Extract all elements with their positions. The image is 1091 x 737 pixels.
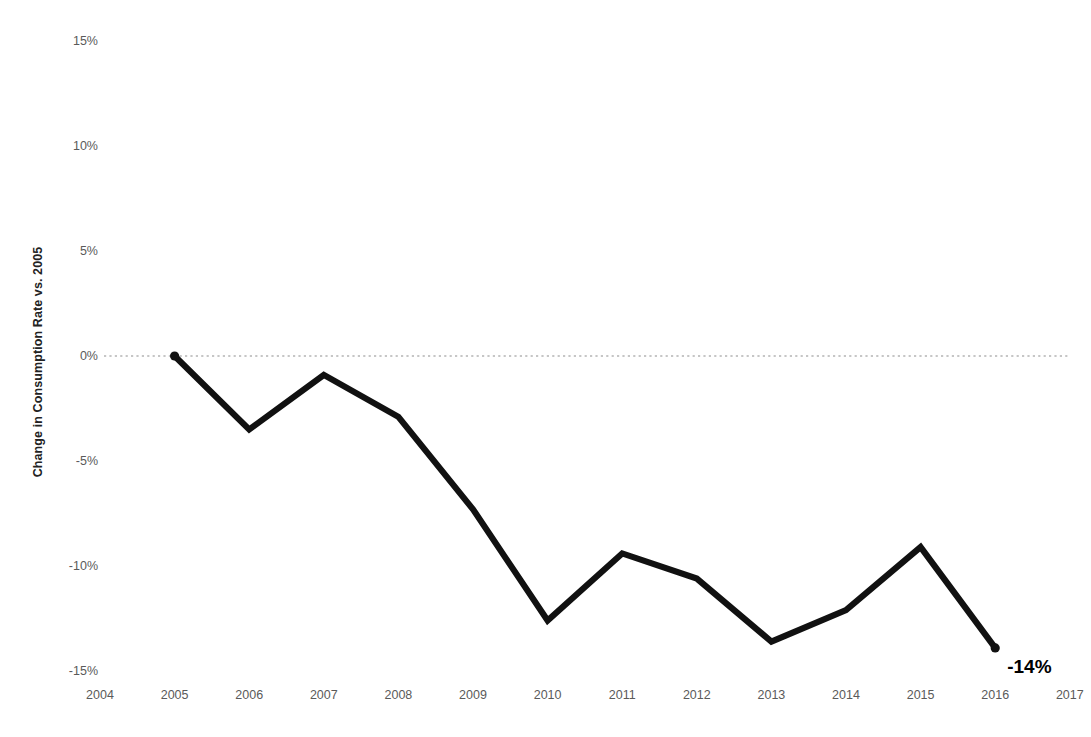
data-point-marker (170, 351, 179, 360)
endpoint-value-label: -14% (1007, 656, 1051, 678)
line-chart: Change in Consumption Rate vs. 2005 15%1… (0, 0, 1091, 737)
data-point-marker (991, 643, 1000, 652)
plot-area (0, 0, 1091, 737)
data-series-line (175, 356, 996, 648)
